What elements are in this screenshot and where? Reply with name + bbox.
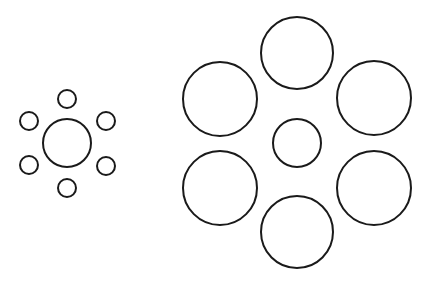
surrounding-circle bbox=[337, 61, 411, 135]
surrounding-circle bbox=[261, 17, 333, 89]
surrounding-circle bbox=[337, 151, 411, 225]
ebbinghaus-illusion-diagram bbox=[0, 0, 430, 287]
center-circle bbox=[43, 119, 91, 167]
surrounding-circle bbox=[183, 62, 257, 136]
left-cluster-small-surround bbox=[20, 90, 115, 197]
surrounding-circle bbox=[97, 112, 115, 130]
surrounding-circle bbox=[261, 196, 333, 268]
surrounding-circle bbox=[58, 90, 76, 108]
surrounding-circle bbox=[20, 112, 38, 130]
right-cluster-large-surround bbox=[183, 17, 411, 268]
surrounding-circle bbox=[58, 179, 76, 197]
center-circle bbox=[273, 119, 321, 167]
surrounding-circle bbox=[20, 156, 38, 174]
surrounding-circle bbox=[97, 157, 115, 175]
surrounding-circle bbox=[183, 151, 257, 225]
